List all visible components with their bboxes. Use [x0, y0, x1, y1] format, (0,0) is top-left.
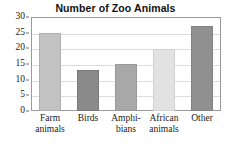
- zoo-animals-bar-chart: Number of Zoo Animals 051015202530 Farma…: [0, 0, 231, 146]
- y-tick-label: 20: [16, 44, 26, 54]
- y-axis: 051015202530: [0, 17, 29, 111]
- y-tick-label: 5: [20, 91, 25, 101]
- bar: [77, 70, 98, 111]
- x-axis: FarmanimalsBirdsAmphi-biansAfricananimal…: [31, 113, 221, 145]
- x-tick-label-line: Farm: [31, 113, 69, 124]
- x-tick-label-line: African: [145, 113, 183, 124]
- y-tick-mark: [26, 79, 29, 80]
- bar: [115, 64, 136, 111]
- y-tick-label: 25: [16, 28, 26, 38]
- y-tick-label: 0: [20, 106, 25, 116]
- x-tick-label: Africananimals: [145, 113, 183, 135]
- bar: [191, 26, 212, 111]
- x-tick-label-line: Birds: [69, 113, 107, 124]
- chart-title: Number of Zoo Animals: [0, 2, 231, 14]
- bar: [153, 49, 174, 111]
- x-tick-label: Farmanimals: [31, 113, 69, 135]
- y-tick-mark: [26, 111, 29, 112]
- y-tick-mark: [26, 64, 29, 65]
- x-tick-label-line: animals: [145, 124, 183, 135]
- y-tick-label: 15: [16, 59, 26, 69]
- y-tick-mark: [26, 17, 29, 18]
- bars-group: [31, 17, 221, 111]
- x-tick-label-line: animals: [31, 124, 69, 135]
- y-tick-mark: [26, 48, 29, 49]
- x-tick-label: Birds: [69, 113, 107, 124]
- y-tick-mark: [26, 95, 29, 96]
- y-tick-label: 30: [16, 12, 26, 22]
- x-tick-label: Amphi-bians: [107, 113, 145, 135]
- y-tick-label: 10: [16, 75, 26, 85]
- x-tick-label-line: Amphi-: [107, 113, 145, 124]
- bar: [39, 33, 60, 111]
- x-tick-label-line: bians: [107, 124, 145, 135]
- y-tick-mark: [26, 32, 29, 33]
- x-tick-label: Other: [183, 113, 221, 124]
- x-tick-label-line: Other: [183, 113, 221, 124]
